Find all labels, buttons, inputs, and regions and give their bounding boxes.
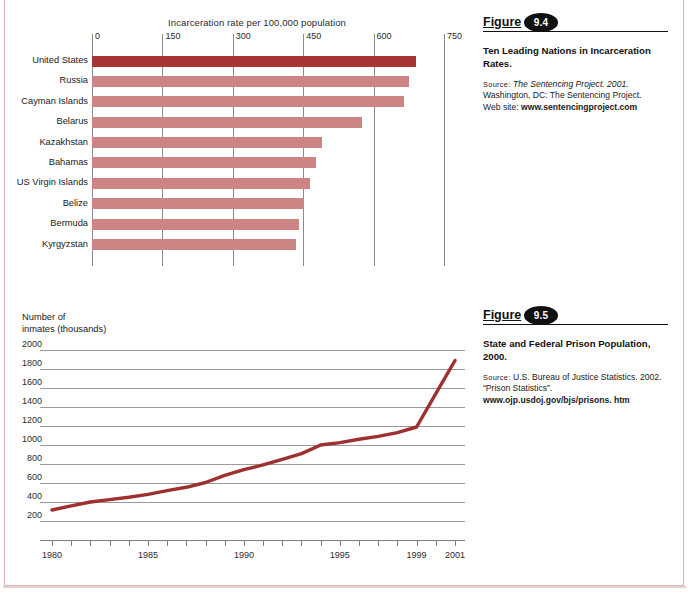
figure-9-5-source-line2: “Prison Statistics”. [483, 383, 552, 393]
bar-chart-row-label: Cayman Islands [0, 96, 88, 106]
figure-9-4-source-line2: Washington, DC: The Sentencing Project. [483, 90, 642, 100]
figure-9-5-source: Source: U.S. Bureau of Justice Statistic… [483, 372, 668, 406]
figure-9-4-rule [483, 31, 668, 32]
bar-chart-row: Cayman Islands [0, 93, 470, 113]
figure-9-5-rule [483, 324, 668, 325]
bar-chart-row: Russia [0, 72, 470, 92]
bar-chart-bar [92, 117, 362, 128]
bar-chart-row: Bermuda [0, 215, 470, 235]
bar-chart-tick-label: 150 [162, 31, 180, 41]
figure-9-4-source-line3-label: Web site: [483, 102, 519, 112]
bar-chart-tick-label: 600 [374, 31, 392, 41]
figure-caption-9-4: Figure 9.4 Ten Leading Nations in Incarc… [483, 14, 668, 113]
bar-chart-row-label: US Virgin Islands [0, 177, 88, 187]
figure-caption-9-5: Figure 9.5 State and Federal Prison Popu… [483, 307, 668, 406]
bar-chart-figure-9-4: Incarceration rate per 100,000 populatio… [0, 0, 470, 285]
line-chart-series [0, 300, 470, 585]
bar-chart-tick-label: 450 [303, 31, 321, 41]
bar-chart-row: Bahamas [0, 154, 470, 174]
figure-9-5-website: www.ojp.usdoj.gov/bjs/prisons. htm [483, 395, 630, 405]
bar-chart-rows: United StatesRussiaCayman IslandsBelarus… [0, 52, 470, 256]
figure-9-5-header: Figure 9.5 [483, 307, 668, 329]
bar-chart-bar [92, 96, 404, 107]
bar-chart-row-label: Kyrgyzstan [0, 239, 88, 249]
figure-9-5-source-line1: U.S. Bureau of Justice Statistics. 2002. [513, 372, 662, 382]
figure-9-4-source: Source: The Sentencing Project. 2001. Wa… [483, 79, 668, 113]
bar-chart-row: US Virgin Islands [0, 174, 470, 194]
figure-9-4-title: Ten Leading Nations in Incarceration Rat… [483, 44, 668, 70]
figure-9-4-word: Figure [483, 15, 521, 29]
bar-chart-tick-label: 300 [233, 31, 251, 41]
figure-9-4-source-italic: The Sentencing Project. 2001. [513, 79, 629, 89]
bar-chart-row: Kazakhstan [0, 134, 470, 154]
figure-9-5-word: Figure [483, 308, 521, 322]
bar-chart-tick-label: 0 [92, 31, 100, 41]
bar-chart-row-label: Kazakhstan [0, 137, 88, 147]
bar-chart-bar [92, 178, 310, 189]
bar-chart-bar [92, 137, 322, 148]
bar-chart-bar [92, 219, 299, 230]
bar-chart-row-label: Belize [0, 198, 88, 208]
bar-chart-row: Belarus [0, 113, 470, 133]
figure-9-5-number-badge: 9.5 [524, 306, 558, 325]
bar-chart-row: Belize [0, 195, 470, 215]
figure-9-5-source-label: Source: [483, 373, 511, 382]
bar-chart-axis-title: Incarceration rate per 100,000 populatio… [92, 17, 422, 28]
bar-chart-row-label: United States [0, 55, 88, 65]
figure-9-5-title: State and Federal Prison Population, 200… [483, 337, 668, 363]
bar-chart-bar [92, 157, 316, 168]
bar-chart-row-label: Bahamas [0, 157, 88, 167]
figure-9-4-header: Figure 9.4 [483, 14, 668, 36]
bar-chart-bar [92, 76, 409, 87]
bar-chart-row-label: Belarus [0, 116, 88, 126]
bar-chart-row-label: Bermuda [0, 218, 88, 228]
figure-9-4-source-label: Source: [483, 80, 511, 89]
line-chart-figure-9-5: Number of inmates (thousands) 2004006008… [0, 300, 470, 585]
bar-chart-row-label: Russia [0, 75, 88, 85]
bar-chart-tick-label: 750 [444, 31, 462, 41]
bar-chart-row: United States [0, 52, 470, 72]
bar-chart-row: Kyrgyzstan [0, 236, 470, 256]
figure-9-4-website: www.sentencingproject.com [521, 102, 637, 112]
bar-chart-bar [92, 56, 416, 67]
bar-chart-bar [92, 239, 296, 250]
figure-9-4-number-badge: 9.4 [524, 13, 558, 32]
bar-chart-bar [92, 198, 304, 209]
